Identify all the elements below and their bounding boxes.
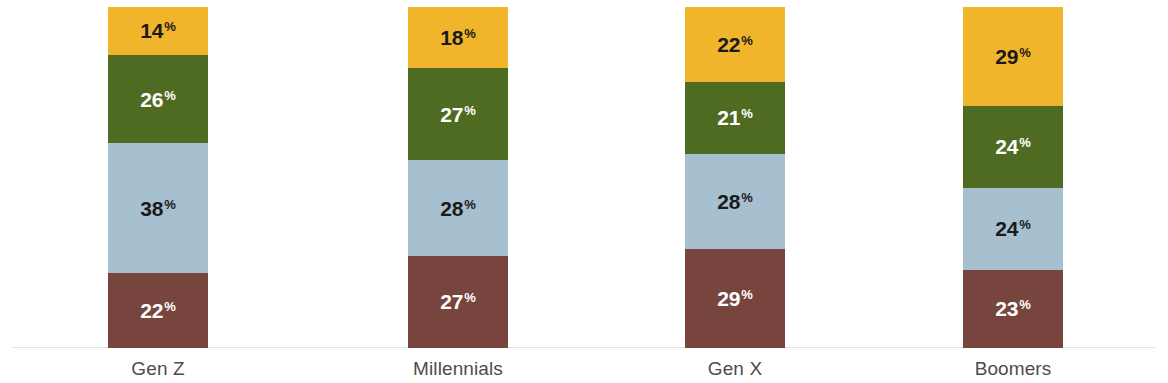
segment-value-label: 14%	[140, 20, 175, 41]
category-label-millennials: Millennials	[348, 358, 568, 380]
segment-value-label: 29%	[995, 46, 1030, 67]
bar-segment-blue[interactable]: 38%	[108, 143, 208, 273]
bar-group-gen-x: 22% 21% 28% 29%	[685, 7, 785, 348]
segment-value-label: 24%	[995, 218, 1030, 239]
segment-value-label: 27%	[440, 104, 475, 125]
bar-group-gen-z: 14% 26% 38% 22%	[108, 7, 208, 348]
segment-value-label: 24%	[995, 136, 1030, 157]
bar-group-boomers: 29% 24% 24% 23%	[963, 7, 1063, 348]
bar-segment-green[interactable]: 21%	[685, 82, 785, 154]
bar-segment-brown[interactable]: 29%	[685, 249, 785, 348]
segment-value-label: 22%	[717, 34, 752, 55]
stacked-bar-chart: 14% 26% 38% 22%	[0, 0, 1168, 383]
segment-value-label: 26%	[140, 89, 175, 110]
bar-segment-yellow[interactable]: 14%	[108, 7, 208, 55]
segment-value-label: 18%	[440, 27, 475, 48]
stacked-bar: 29% 24% 24% 23%	[963, 7, 1063, 348]
stacked-bar: 14% 26% 38% 22%	[108, 7, 208, 348]
segment-value-label: 29%	[717, 288, 752, 309]
bar-segment-blue[interactable]: 28%	[408, 160, 508, 255]
bar-segment-blue[interactable]: 24%	[963, 188, 1063, 270]
segment-value-label: 28%	[717, 191, 752, 212]
bar-segment-green[interactable]: 24%	[963, 106, 1063, 188]
bar-group-millennials: 18% 27% 28% 27%	[408, 7, 508, 348]
bar-segment-yellow[interactable]: 18%	[408, 7, 508, 68]
stacked-bar: 22% 21% 28% 29%	[685, 7, 785, 348]
bar-segment-brown[interactable]: 27%	[408, 256, 508, 348]
bar-segment-brown[interactable]: 23%	[963, 270, 1063, 348]
category-label-gen-x: Gen X	[625, 358, 845, 380]
bar-segment-yellow[interactable]: 22%	[685, 7, 785, 82]
segment-value-label: 23%	[995, 298, 1030, 319]
category-label-boomers: Boomers	[903, 358, 1123, 380]
segment-value-label: 21%	[717, 107, 752, 128]
segment-value-label: 28%	[440, 198, 475, 219]
bar-segment-yellow[interactable]: 29%	[963, 7, 1063, 106]
category-label-gen-z: Gen Z	[48, 358, 268, 380]
bar-segment-green[interactable]: 27%	[408, 68, 508, 160]
segment-value-label: 27%	[440, 291, 475, 312]
segment-value-label: 38%	[140, 198, 175, 219]
bar-segment-brown[interactable]: 22%	[108, 273, 208, 348]
bar-segment-blue[interactable]: 28%	[685, 154, 785, 249]
bar-segment-green[interactable]: 26%	[108, 55, 208, 144]
segment-value-label: 22%	[140, 300, 175, 321]
stacked-bar: 18% 27% 28% 27%	[408, 7, 508, 348]
